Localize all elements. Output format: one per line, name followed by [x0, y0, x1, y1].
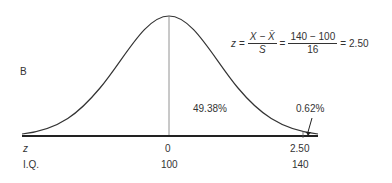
- normal-curve-diagram: [0, 0, 392, 183]
- iq-axis-label: I.Q.: [23, 159, 39, 170]
- formula-result: 2.50: [349, 38, 368, 49]
- iq-tick-140: 140: [292, 159, 309, 170]
- z-score-formula: z = X − X̄ S = 140 − 100 16 = 2.50: [231, 31, 369, 56]
- formula-fraction-1: X − X̄ S: [248, 31, 277, 56]
- formula-fraction-2: 140 − 100 16: [288, 31, 337, 56]
- z-tick-2-50: 2.50: [290, 143, 309, 154]
- formula-eq1: =: [239, 38, 245, 49]
- formula-eq2: =: [280, 38, 286, 49]
- formula-z: z: [231, 38, 236, 49]
- z-tick-0: 0: [165, 143, 171, 154]
- area-tail-label: 0.62%: [296, 103, 324, 114]
- area-center-label: 49.38%: [193, 103, 227, 114]
- iq-tick-100: 100: [161, 159, 178, 170]
- formula-eq3: =: [340, 38, 346, 49]
- tail-arrow: [308, 118, 312, 132]
- panel-label: B: [20, 66, 27, 77]
- z-axis-label: z: [23, 143, 28, 154]
